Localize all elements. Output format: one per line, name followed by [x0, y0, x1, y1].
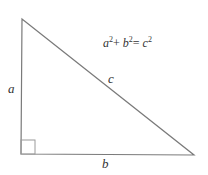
formula-plus: + [113, 36, 120, 50]
side-c-label: c [108, 72, 114, 85]
side-b-label: b [102, 157, 109, 170]
triangle-diagram [0, 0, 208, 175]
pythagorean-formula: a2+ b2= c2 [103, 37, 152, 49]
right-angle-marker [21, 140, 35, 154]
side-a-label: a [8, 82, 15, 95]
formula-equals: = [133, 36, 140, 50]
formula-exp: 2 [148, 35, 152, 44]
